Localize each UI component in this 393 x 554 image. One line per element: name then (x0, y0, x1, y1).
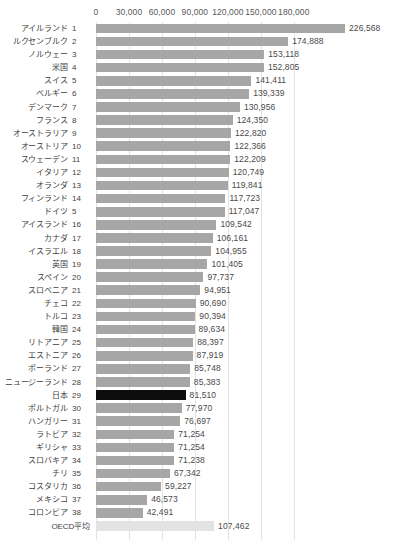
table-row: スロバキア3471,238 (0, 454, 393, 467)
row-rank-label: 30 (72, 402, 90, 415)
table-row: オーストラリア9122,820 (0, 127, 393, 140)
bar (96, 63, 264, 73)
row-category-label: スロバキア (0, 454, 68, 467)
bar-value-label: 107,462 (218, 520, 249, 533)
bar-value-label: 120,749 (233, 166, 264, 179)
row-category-label: ギリシャ (0, 441, 68, 454)
table-row: 英国19101,405 (0, 258, 393, 271)
bar (96, 76, 251, 86)
bar (96, 338, 193, 348)
row-category-label: イタリア (0, 166, 68, 179)
table-row: ハンガリー3176,697 (0, 415, 393, 428)
row-rank-label: 14 (72, 192, 90, 205)
axis-tick-label: 150,000 (245, 7, 276, 17)
row-category-label: ノルウェー (0, 48, 68, 61)
table-row: トルコ2390,394 (0, 310, 393, 323)
bar-value-label: 117,047 (229, 205, 260, 218)
bar-value-label: 106,161 (217, 232, 248, 245)
axis-tick-label: 30,000 (116, 7, 143, 17)
row-rank-label: 5 (72, 74, 90, 87)
row-rank-label: 3 (72, 48, 90, 61)
row-rank-label: 9 (72, 127, 90, 140)
table-row: コロンビア3842,491 (0, 506, 393, 519)
row-rank-label: 32 (72, 428, 90, 441)
table-row: デンマーク7130,956 (0, 101, 393, 114)
table-row: フランス8124,350 (0, 114, 393, 127)
x-axis: 030,00060,00090,000120,000150,000180,000 (0, 0, 393, 24)
row-category-label: ドイツ (0, 205, 68, 218)
row-rank-label: 31 (72, 415, 90, 428)
bar-value-label: 104,955 (215, 245, 246, 258)
row-category-label: フィンランド (0, 192, 68, 205)
bar (96, 102, 240, 112)
bar-value-label: 124,350 (237, 114, 268, 127)
bar (96, 194, 225, 204)
table-row: スペイン2097,737 (0, 271, 393, 284)
row-rank-label: 19 (72, 258, 90, 271)
table-row: ノルウェー3153,118 (0, 48, 393, 61)
row-rank-label: 4 (72, 61, 90, 74)
row-rank-label: 25 (72, 336, 90, 349)
row-rank-label: 13 (72, 179, 90, 192)
bar (96, 299, 196, 309)
bar-value-label: 94,951 (204, 284, 231, 297)
bar-value-label: 67,342 (174, 467, 201, 480)
row-category-label: トルコ (0, 310, 68, 323)
bar-value-label: 153,118 (268, 48, 299, 61)
table-row: ポーランド2785,748 (0, 362, 393, 375)
row-rank-label: 36 (72, 480, 90, 493)
bar (96, 377, 190, 387)
row-rank-label: 8 (72, 114, 90, 127)
table-row: ベルギー6139,339 (0, 87, 393, 100)
row-rank-label: 5 (72, 205, 90, 218)
bar (96, 416, 180, 426)
table-row: メキシコ3746,573 (0, 493, 393, 506)
bar (96, 390, 186, 400)
row-rank-label: 18 (72, 245, 90, 258)
table-row: リトアニア2588,397 (0, 336, 393, 349)
bar (96, 521, 214, 531)
bar (96, 430, 174, 440)
row-rank-label: 38 (72, 506, 90, 519)
row-rank-label: 20 (72, 271, 90, 284)
axis-tick-label: 90,000 (182, 7, 209, 17)
bar-value-label: 101,405 (211, 258, 242, 271)
bar (96, 155, 230, 165)
bar (96, 259, 207, 269)
row-category-label: 日本 (0, 389, 68, 402)
row-category-label: アイスランド (0, 218, 68, 231)
row-category-label: OECD平均 (0, 520, 90, 533)
table-row: アイルランド1226,568 (0, 22, 393, 35)
row-category-label: フランス (0, 114, 68, 127)
row-category-label: オーストリア (0, 140, 68, 153)
bar-value-label: 46,573 (151, 493, 178, 506)
table-row: カナダ17106,161 (0, 232, 393, 245)
bar (96, 141, 230, 151)
bar (96, 325, 195, 335)
bar-value-label: 59,227 (165, 480, 192, 493)
bar (96, 508, 143, 518)
bar (96, 89, 249, 99)
row-rank-label: 21 (72, 284, 90, 297)
axis-tick-label: 0 (94, 7, 99, 17)
bar-value-label: 130,956 (244, 101, 275, 114)
table-row: イタリア12120,749 (0, 166, 393, 179)
row-category-label: カナダ (0, 232, 68, 245)
bar-value-label: 71,238 (178, 454, 205, 467)
axis-tick-label: 120,000 (212, 7, 243, 17)
row-category-label: ルクセンブルク (0, 35, 68, 48)
axis-tick-label: 180,000 (278, 7, 309, 17)
table-row: オーストリア10122,366 (0, 140, 393, 153)
row-rank-label: 11 (72, 153, 90, 166)
row-rank-label: 10 (72, 140, 90, 153)
row-category-label: オランダ (0, 179, 68, 192)
row-category-label: ニュージーランド (0, 376, 68, 389)
table-row: チリ3567,342 (0, 467, 393, 480)
row-category-label: ベルギー (0, 87, 68, 100)
bar-value-label: 139,339 (253, 87, 284, 100)
row-category-label: コスタリカ (0, 480, 68, 493)
row-category-label: ポーランド (0, 362, 68, 375)
row-category-label: 英国 (0, 258, 68, 271)
bar-value-label: 89,634 (199, 323, 226, 336)
bar-value-label: 71,254 (178, 428, 205, 441)
